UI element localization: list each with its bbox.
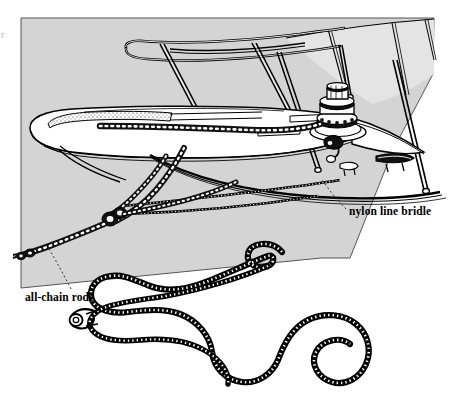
ground-tackle-illustration xyxy=(0,0,456,403)
bridle-shackle xyxy=(70,309,99,328)
page-edge-artifact: r xyxy=(1,29,10,40)
figure-page: nylon line bridle all-chain rode r xyxy=(0,0,456,403)
all-chain-rode-label: all-chain rode xyxy=(25,291,94,303)
nylon-line-bridle-label: nylon line bridle xyxy=(349,205,431,217)
